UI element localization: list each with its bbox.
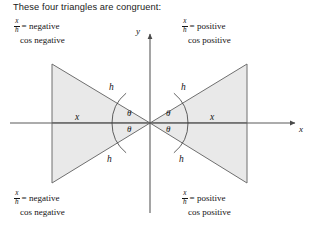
label-h-top-left: h: [109, 82, 114, 92]
y-axis-label: y: [136, 26, 140, 36]
triangle-upper-left: [52, 64, 150, 123]
triangle-upper-right: [150, 64, 247, 123]
label-h-top-right: h: [181, 82, 186, 92]
label-x-left: x: [75, 112, 79, 122]
triangle-lower-right: [150, 123, 247, 183]
label-h-bottom-right: h: [179, 154, 184, 164]
congruent-triangles-diagram: [0, 0, 309, 228]
label-theta-upper-left: θ: [127, 108, 131, 118]
x-axis-label: x: [299, 124, 303, 134]
figure-page: These four triangles are congruent: x h …: [0, 0, 309, 228]
triangle-lower-left: [52, 123, 150, 183]
label-theta-lower-right: θ: [166, 124, 170, 134]
label-theta-lower-left: θ: [127, 124, 131, 134]
label-theta-upper-right: θ: [166, 108, 170, 118]
label-h-bottom-left: h: [107, 154, 112, 164]
label-x-right: x: [210, 112, 214, 122]
